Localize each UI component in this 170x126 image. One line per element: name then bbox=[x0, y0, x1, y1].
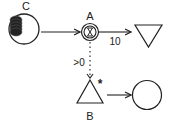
modifier-star: * bbox=[98, 77, 103, 91]
edge-a-to-drain-label: 10 bbox=[109, 36, 121, 47]
node-b-label: B bbox=[86, 110, 93, 122]
node-c[interactable]: C bbox=[9, 0, 39, 44]
node-c-label: C bbox=[22, 0, 30, 12]
node-b[interactable]: * B bbox=[77, 77, 103, 122]
node-pool-circle[interactable] bbox=[133, 81, 162, 110]
node-a-label: A bbox=[86, 10, 94, 22]
resource-stack-icon bbox=[10, 16, 22, 36]
edge-a-to-b-label: >0 bbox=[73, 57, 85, 68]
diagram-canvas: C A 10 >0 * B bbox=[0, 0, 170, 126]
node-a[interactable]: A bbox=[82, 10, 99, 41]
node-drain-down-triangle[interactable] bbox=[135, 25, 162, 47]
